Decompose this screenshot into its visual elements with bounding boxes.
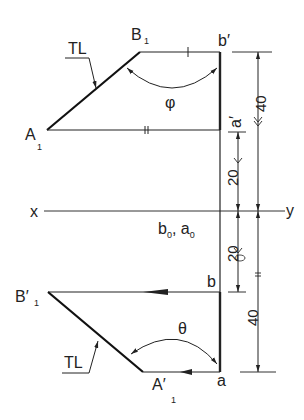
true-length-line-front bbox=[47, 52, 140, 130]
trace-label: b0, a0 bbox=[158, 220, 195, 240]
a1prime-label: A′ bbox=[152, 376, 166, 393]
b1prime-subscript: 1 bbox=[34, 298, 39, 308]
b1-subscript: 1 bbox=[144, 36, 149, 46]
dim-text-lower-outer: 40 bbox=[244, 309, 261, 326]
tl-leader-front bbox=[65, 58, 96, 88]
arrow-b-line bbox=[143, 289, 168, 295]
a1-label: A bbox=[25, 126, 36, 143]
dim-text-upper-outer: 40 bbox=[252, 95, 269, 112]
aprime-label: a′ bbox=[227, 116, 244, 128]
dim-text-lower-inner: 20 bbox=[224, 245, 241, 262]
tl-label-top: TL bbox=[64, 354, 83, 371]
y-label: y bbox=[286, 202, 294, 219]
b1prime-label: B′ bbox=[15, 288, 29, 305]
phi-label: φ bbox=[165, 94, 175, 111]
x-label: x bbox=[30, 203, 38, 220]
bprime-label: b′ bbox=[218, 32, 230, 49]
b-label: b bbox=[207, 273, 216, 290]
dim-text-upper-inner: 20 bbox=[224, 169, 241, 186]
a1-subscript: 1 bbox=[37, 142, 42, 152]
a-label: a bbox=[217, 372, 226, 389]
b1-label: B bbox=[131, 26, 142, 43]
theta-angle-arc bbox=[131, 339, 217, 364]
projection-diagram: x y φ TL B 1 b′ A 1 a′ θ TL B′ 1 b A′ 1 … bbox=[0, 0, 304, 420]
a1prime-subscript: 1 bbox=[171, 395, 176, 405]
tl-label-front: TL bbox=[68, 40, 87, 57]
phi-angle-arc bbox=[127, 68, 217, 88]
arrow-a-line bbox=[180, 369, 192, 375]
theta-label: θ bbox=[178, 320, 187, 337]
true-length-line-top bbox=[48, 292, 143, 372]
